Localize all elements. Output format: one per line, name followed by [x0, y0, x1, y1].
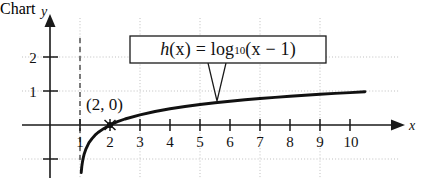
logarithmic-function-figure: 1 2 3 4 5 6 7 8 9 10 2 1 x y (: [0, 0, 427, 184]
y-axis-label: y: [39, 4, 48, 19]
x-axis-arrowhead: [391, 120, 405, 131]
x-tick-labels: 1 2 3 4 5 6 7 8 9 10: [76, 134, 358, 150]
formula-leader-line: [208, 63, 226, 101]
y-tick-labels: 2 1: [29, 50, 37, 100]
x-tick-label-6: 6: [226, 134, 234, 150]
x-tick-label-10: 10: [344, 134, 359, 150]
x-tick-label-7: 7: [256, 134, 264, 150]
x-tick-label-9: 9: [316, 134, 324, 150]
x-axis-label: x: [408, 118, 416, 133]
function-curve-path: [81, 92, 365, 173]
x-tick-label-4: 4: [166, 134, 174, 150]
y-tick-label-2: 2: [29, 50, 37, 66]
formula-box: [130, 36, 326, 63]
x-tick-label-2: 2: [106, 134, 114, 150]
x-tick-label-3: 3: [136, 134, 144, 150]
x-tick-label-5: 5: [196, 134, 204, 150]
graph-canvas: 1 2 3 4 5 6 7 8 9 10 2 1 x y (: [0, 0, 427, 184]
y-tick-label-1: 1: [29, 84, 37, 100]
point-annotation-label: (2, 0): [86, 95, 123, 114]
x-tick-label-1: 1: [76, 134, 84, 150]
x-tick-label-8: 8: [286, 134, 294, 150]
